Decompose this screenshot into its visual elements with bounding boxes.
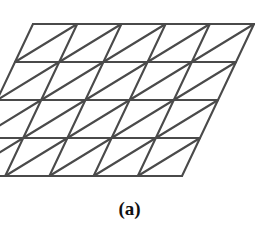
figure-container: (a)	[0, 0, 259, 246]
figure-caption: (a)	[0, 197, 259, 221]
